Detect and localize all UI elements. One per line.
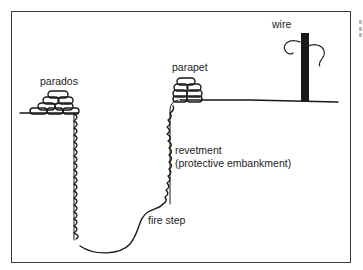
revetment-label: revetment xyxy=(175,144,222,156)
fire-step-label: fire step xyxy=(148,214,185,226)
parapet-label: parapet xyxy=(172,61,208,73)
trench-floor xyxy=(80,204,163,253)
left-revetment xyxy=(74,114,78,239)
wire-post xyxy=(301,33,309,102)
right-revetment xyxy=(163,106,174,204)
trench-illustration xyxy=(0,0,363,270)
parapet-sandbags xyxy=(173,78,202,102)
cropped-edge-mark xyxy=(359,20,362,24)
cropped-edge-mark xyxy=(359,27,362,31)
parados-label: parados xyxy=(40,75,78,87)
parados-sandbags xyxy=(30,91,79,114)
wire-label: wire xyxy=(272,18,291,30)
right-ground-line xyxy=(180,100,338,102)
revetment-sublabel: (protective embankment) xyxy=(175,157,291,169)
cropped-edge-mark xyxy=(359,33,362,37)
